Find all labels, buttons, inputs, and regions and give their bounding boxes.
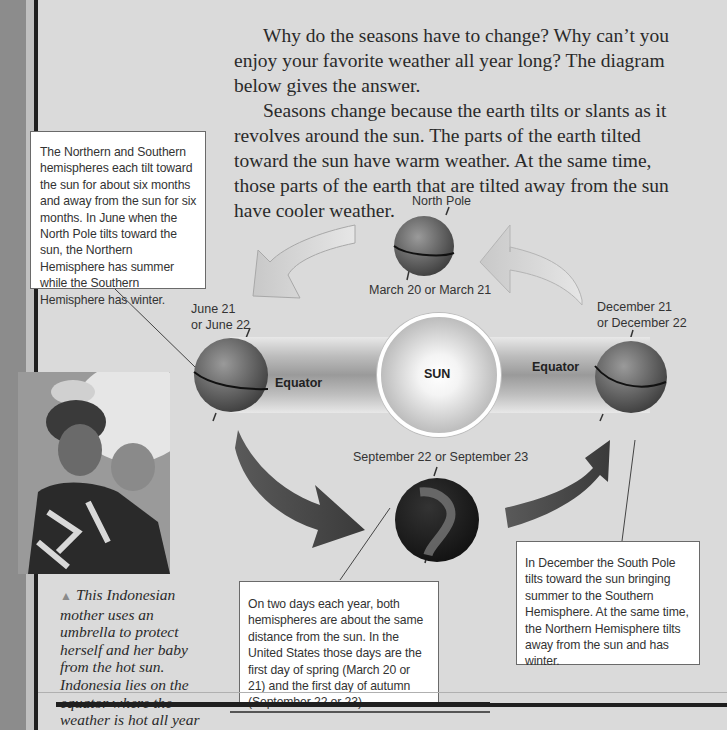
march-date-label: March 20 or March 21 <box>369 282 491 298</box>
september-date-label: September 22 or September 23 <box>353 449 528 465</box>
bottom-rule-right <box>490 703 727 707</box>
caption-text: This Indonesian mother uses an umbrella … <box>60 586 200 730</box>
callout-hemispheres: The Northern and Southern hemispheres ea… <box>30 131 206 289</box>
earth-march <box>394 216 454 276</box>
bottom-rule <box>56 702 490 707</box>
callout-december: In December the South Pole tilts toward … <box>516 541 700 665</box>
earth-june <box>194 338 268 412</box>
december-date-label: December 21 or December 22 <box>597 299 687 331</box>
callout-equinox: On two days each year, both hemispheres … <box>239 581 439 703</box>
earth-december <box>595 341 667 413</box>
indonesian-mother-photo <box>18 372 170 574</box>
bottom-strip <box>230 711 490 713</box>
caption-marker-icon: ▲ <box>60 589 72 603</box>
north-pole-label: North Pole <box>412 193 471 209</box>
earth-september <box>395 478 479 562</box>
june-date-label: June 21 or June 22 <box>191 301 250 333</box>
page-fold-line <box>38 692 727 693</box>
photo-caption: ▲This Indonesian mother uses an umbrella… <box>60 586 210 730</box>
photo-illustration <box>18 372 170 574</box>
